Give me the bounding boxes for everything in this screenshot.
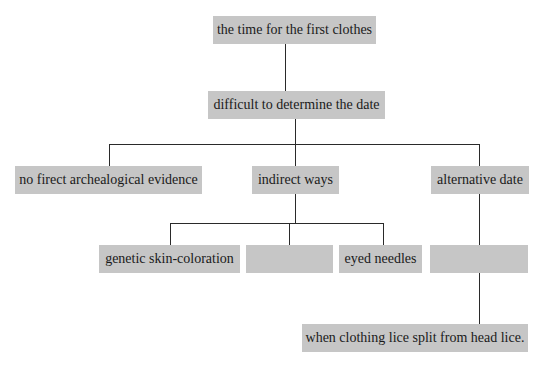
node-difficult-to-determine: difficult to determine the date	[208, 91, 385, 119]
node-alternative-date: alternative date	[431, 166, 529, 194]
connector-root-to-level1	[285, 44, 286, 91]
connector-indirect-down	[295, 194, 296, 223]
node-indirect-ways: indirect ways	[252, 166, 339, 194]
node-blank-2[interactable]	[430, 245, 528, 273]
node-eyed-needles: eyed needles	[339, 245, 422, 273]
connector-to-alternative-date	[479, 144, 480, 166]
connector-to-no-evidence	[109, 144, 110, 166]
connector-to-eyed-needles	[383, 223, 384, 245]
node-lice-split: when clothing lice split from head lice.	[302, 324, 528, 352]
connector-to-blank-1	[289, 223, 290, 245]
connector-alternative-to-blank-2	[479, 194, 480, 245]
connector-level1-down	[295, 119, 296, 144]
connector-to-genetic	[170, 223, 171, 245]
connector-blank-2-to-lice	[479, 273, 480, 324]
connector-level3-bar	[170, 223, 384, 224]
node-blank-1[interactable]	[246, 245, 333, 273]
connector-to-indirect-ways	[295, 144, 296, 166]
node-genetic-skin-coloration: genetic skin-coloration	[99, 245, 240, 273]
node-root: the time for the first clothes	[213, 16, 376, 44]
node-no-evidence: no firect archealogical evidence	[15, 166, 202, 194]
